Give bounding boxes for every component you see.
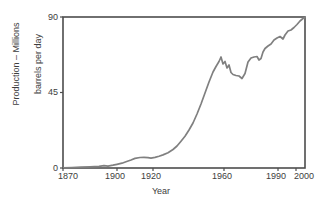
- x-tick-label-2000: 2000: [294, 172, 314, 181]
- x-tick-label-1920: 1920: [141, 172, 161, 181]
- y-axis-label: Production – Millions barrels per day: [0, 0, 44, 129]
- x-tick-label-1900: 1900: [105, 172, 125, 181]
- y-axis-label-line2: barrels per day: [33, 34, 43, 94]
- y-axis-label-line1: Production – Millions: [11, 22, 21, 105]
- x-tick-label-1960: 1960: [212, 172, 232, 181]
- x-axis-label: Year: [0, 186, 322, 196]
- plot-frame: [63, 17, 305, 168]
- x-tick-label-1870: 1870: [58, 172, 78, 181]
- y-tick-label-0: 0: [44, 164, 58, 173]
- chart-figure: 90 45 0 1870 1900 1920 1960 1990 2000 Pr…: [0, 0, 322, 205]
- x-tick-label-1990: 1990: [266, 172, 286, 181]
